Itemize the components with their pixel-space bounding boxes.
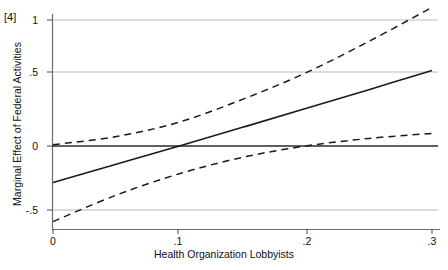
y-axis-label: Marginal Effect of Federal Activities bbox=[11, 29, 23, 219]
series-lines bbox=[53, 7, 432, 221]
marginal-effect-figure: [4] Marginal Effect of Federal Activitie… bbox=[0, 0, 448, 270]
x-tick-label-0point1: .1 bbox=[163, 235, 193, 247]
y-tick-label-1: 1 bbox=[14, 14, 38, 26]
x-axis-label: Health Organization Lobbyists bbox=[0, 248, 448, 260]
upper-confidence-bound-line bbox=[53, 7, 432, 144]
x-tick-label-0point2: .2 bbox=[292, 235, 322, 247]
marginal-effect-line bbox=[53, 70, 432, 182]
x-tick-label-0point3: .3 bbox=[417, 235, 447, 247]
x-tick-label-0: 0 bbox=[38, 235, 68, 247]
y-tick-label-minus0point5: -.5 bbox=[10, 204, 38, 216]
axis-ticks bbox=[47, 20, 432, 234]
y-tick-label-0: 0 bbox=[14, 140, 38, 152]
gridlines bbox=[52, 20, 438, 210]
y-tick-label-0point5: .5 bbox=[14, 66, 38, 78]
plot-area bbox=[0, 0, 448, 270]
